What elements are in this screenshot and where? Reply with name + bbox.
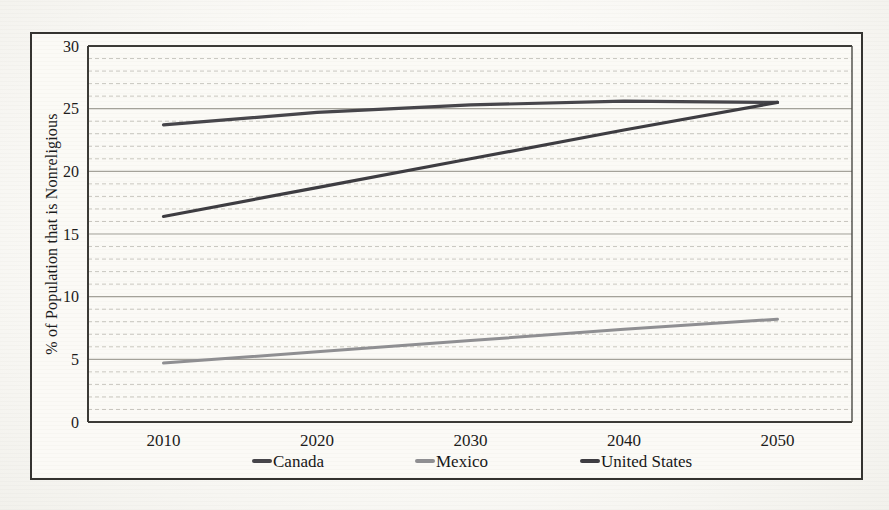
- x-tick-label: 2010: [147, 431, 181, 450]
- legend-item-united-states: United States: [580, 452, 692, 472]
- y-tick-label: 10: [63, 288, 79, 305]
- x-tick-label: 2050: [761, 431, 795, 450]
- x-tick-label: 2040: [607, 431, 641, 450]
- y-tick-label: 15: [63, 226, 79, 243]
- y-tick-label: 5: [71, 351, 79, 368]
- legend-label-united-states: United States: [601, 452, 692, 471]
- united-states-line-swatch-icon: [580, 459, 600, 463]
- mexico-line-swatch-icon: [415, 459, 435, 463]
- x-tick-label: 2020: [300, 431, 334, 450]
- y-tick-label: 25: [63, 100, 79, 117]
- legend-label-canada: Canada: [273, 452, 324, 471]
- y-axis-title: % of Population that is Nonreligious: [43, 113, 61, 354]
- canada-line-swatch-icon: [252, 459, 272, 463]
- legend-item-canada: Canada: [252, 452, 324, 472]
- x-tick-label: 2030: [454, 431, 488, 450]
- chart-canvas: 05101520253020102020203020402050: [0, 0, 889, 510]
- legend-item-mexico: Mexico: [415, 452, 488, 472]
- y-tick-label: 0: [71, 414, 79, 431]
- series-line-mexico: [164, 319, 778, 363]
- y-tick-label: 20: [63, 163, 79, 180]
- legend-label-mexico: Mexico: [436, 452, 488, 471]
- y-tick-label: 30: [63, 38, 79, 55]
- scanned-chart-page: { "chart_data": { "type": "line", "title…: [0, 0, 889, 510]
- series-line-united-states: [164, 102, 778, 216]
